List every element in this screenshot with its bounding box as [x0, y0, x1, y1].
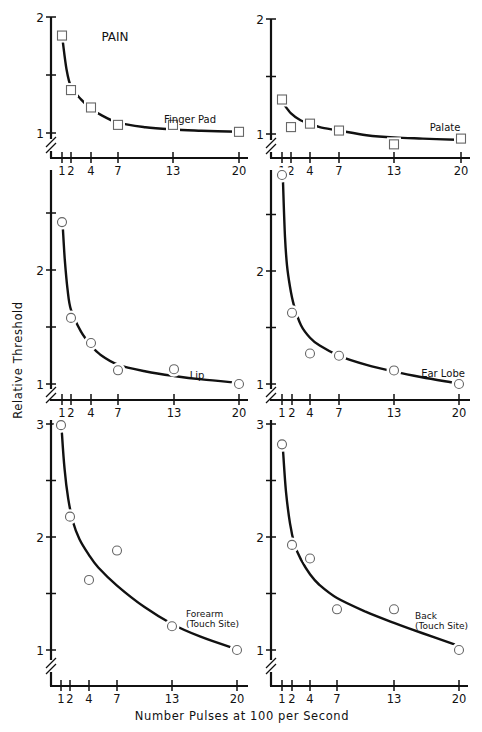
- x-tick-label: 4: [306, 406, 313, 420]
- series-label: Back: [415, 611, 438, 621]
- y-tick-label: 1: [36, 127, 44, 141]
- y-tick-label: 3: [256, 418, 264, 432]
- data-point-circle: [170, 365, 179, 374]
- x-tick-label: 20: [232, 164, 247, 178]
- data-point-circle: [57, 421, 66, 430]
- series-label: Palate: [430, 122, 461, 133]
- y-tick-label: 2: [256, 13, 264, 27]
- data-point-square: [58, 31, 67, 40]
- data-point-square: [390, 140, 399, 149]
- data-point-square: [287, 123, 296, 132]
- data-point-square: [335, 126, 344, 135]
- panel-back-touch-site: 12312471320Back(Touch Site): [256, 418, 468, 706]
- x-tick-label: 13: [165, 692, 180, 706]
- x-tick-label: 20: [452, 406, 467, 420]
- y-tick-label: 1: [256, 378, 264, 392]
- data-point-circle: [235, 380, 244, 389]
- data-point-circle: [114, 366, 123, 375]
- y-tick-label: 1: [256, 644, 264, 658]
- x-tick-label: 13: [387, 164, 402, 178]
- x-tick-label: 7: [333, 692, 340, 706]
- x-tick-label: 13: [387, 692, 402, 706]
- x-tick-label: 7: [335, 164, 342, 178]
- x-tick-label: 7: [113, 692, 120, 706]
- data-point-circle: [335, 351, 344, 360]
- x-tick-label: 20: [230, 692, 245, 706]
- data-point-circle: [168, 622, 177, 631]
- x-axis-label: Number Pulses at 100 per Second: [135, 709, 349, 723]
- data-point-circle: [87, 338, 96, 347]
- x-tick-label: 20: [454, 164, 469, 178]
- series-label: Finger Pad: [164, 114, 216, 125]
- x-tick-label: 1: [58, 164, 65, 178]
- chart-title: PAIN: [101, 30, 128, 44]
- x-tick-label: 20: [232, 406, 247, 420]
- x-tick-label: 13: [167, 406, 182, 420]
- y-tick-label: 2: [36, 264, 44, 278]
- axis-break-mark: [266, 393, 276, 403]
- data-point-circle: [455, 380, 464, 389]
- panel-lip: 1212471320Lip: [36, 170, 248, 420]
- x-tick-label: 20: [452, 692, 467, 706]
- data-point-circle: [66, 512, 75, 521]
- data-point-circle: [67, 313, 76, 322]
- y-tick-label: 2: [256, 265, 264, 279]
- data-point-circle: [390, 366, 399, 375]
- y-tick-label: 2: [36, 531, 44, 545]
- y-axis-label: Relative Threshold: [11, 301, 25, 419]
- y-tick-label: 1: [36, 378, 44, 392]
- data-point-square: [306, 119, 315, 128]
- series-label: Forearm: [186, 609, 223, 619]
- data-point-circle: [390, 605, 399, 614]
- data-point-circle: [288, 308, 297, 317]
- data-point-circle: [233, 646, 242, 655]
- chart-figure: PAIN 1212471320Finger Pad1212471320Palat…: [0, 0, 482, 732]
- x-tick-label: 2: [288, 692, 295, 706]
- y-tick-label: 3: [36, 418, 44, 432]
- data-point-circle: [333, 605, 342, 614]
- y-tick-label: 2: [256, 531, 264, 545]
- data-point-circle: [455, 646, 464, 655]
- series-label: (Touch Site): [186, 619, 239, 629]
- data-point-circle: [58, 218, 67, 227]
- data-point-square: [114, 120, 123, 129]
- y-tick-label: 1: [36, 644, 44, 658]
- data-point-circle: [306, 554, 315, 563]
- data-point-square: [87, 103, 96, 112]
- fit-curve: [63, 229, 239, 383]
- data-point-square: [67, 86, 76, 95]
- x-tick-label: 2: [66, 692, 73, 706]
- x-tick-label: 1: [278, 692, 285, 706]
- panel-palate: 1212471320Palate: [256, 13, 470, 178]
- x-tick-label: 7: [335, 406, 342, 420]
- series-label: Ear Lobe: [421, 368, 465, 379]
- data-point-circle: [288, 540, 297, 549]
- x-tick-label: 4: [87, 406, 94, 420]
- data-point-circle: [306, 349, 315, 358]
- data-point-circle: [278, 440, 287, 449]
- data-point-square: [235, 127, 244, 136]
- x-tick-label: 13: [166, 164, 181, 178]
- data-point-circle: [113, 546, 122, 555]
- y-tick-label: 1: [256, 128, 264, 142]
- axis-break-mark: [46, 393, 56, 403]
- x-tick-label: 13: [387, 406, 402, 420]
- x-tick-label: 4: [87, 164, 94, 178]
- data-point-circle: [85, 575, 94, 584]
- x-tick-label: 4: [306, 692, 313, 706]
- x-tick-label: 4: [85, 692, 92, 706]
- x-tick-label: 7: [114, 164, 121, 178]
- x-tick-label: 2: [67, 164, 74, 178]
- x-tick-label: 2: [67, 406, 74, 420]
- panel-ear-lobe: 1212471320Ear Lobe: [256, 169, 470, 420]
- x-tick-label: 1: [278, 406, 285, 420]
- panel-finger-pad: 1212471320Finger Pad: [36, 11, 248, 178]
- x-tick-label: 7: [114, 406, 121, 420]
- y-tick-label: 2: [36, 11, 44, 25]
- data-point-square: [278, 95, 287, 104]
- data-point-circle: [278, 170, 287, 179]
- series-label: (Touch Site): [415, 621, 468, 631]
- series-label: Lip: [190, 370, 205, 381]
- x-tick-label: 4: [306, 164, 313, 178]
- panel-forearm-touch-site: 12312471320Forearm(Touch Site): [36, 418, 248, 706]
